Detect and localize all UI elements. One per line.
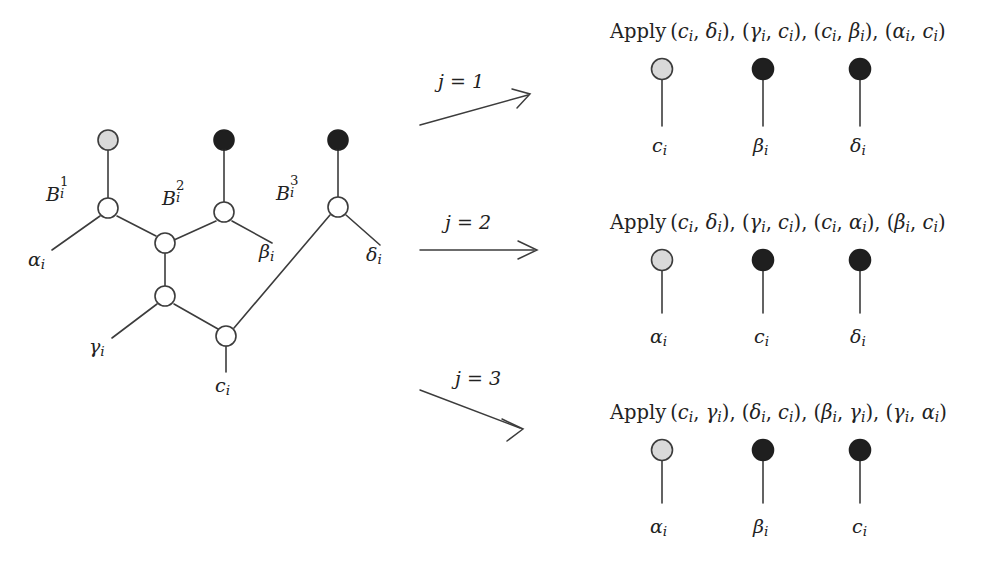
panel-j1-pair-list: (ci, δi), (γi, ci), (ci, βi), (αi, ci) <box>666 20 945 43</box>
figure-canvas: B1i B2i B3i αi βi γi δi ci j = 1 j = 2 j… <box>0 0 988 565</box>
panel-j1-stem-label-3: δi <box>850 136 866 158</box>
apply-pair: (γi, ci) <box>742 20 801 43</box>
panel-j2-stem-label-3: δi <box>850 327 866 349</box>
gadget-label-B2: B2i <box>162 186 188 208</box>
node-top-3-black <box>328 130 348 150</box>
node-b2 <box>214 202 234 222</box>
apply-pair: (βi, γi) <box>814 401 874 424</box>
node-center-upper <box>155 233 175 253</box>
panel-j2-stem-label-1: αi <box>650 327 667 349</box>
panel-j1-apply-text: Apply (ci, δi), (γi, ci), (ci, βi), (αi,… <box>610 22 945 43</box>
node-center-lower <box>155 286 175 306</box>
edge-b2-center <box>174 221 216 240</box>
panel-j3-stem-label-2: βi <box>753 517 768 539</box>
arrow-label-j1: j = 1 <box>438 72 484 91</box>
edge-mid-c <box>174 304 218 329</box>
stem-node-2-2 <box>753 250 774 271</box>
node-top-2-black <box>214 130 234 150</box>
apply-pair: (ci, βi) <box>814 20 873 43</box>
stem-node-2-1 <box>652 250 673 271</box>
node-b1 <box>98 198 118 218</box>
arrow-label-j2: j = 2 <box>445 213 491 232</box>
panel-j2-apply-text: Apply (ci, δi), (γi, ci), (ci, αi), (βi,… <box>610 213 945 234</box>
stem-node-1-1 <box>652 59 673 80</box>
edge-mid-gamma <box>112 304 157 338</box>
node-c <box>216 326 236 346</box>
gadget-label-alpha: αi <box>28 250 45 272</box>
edge-b3-delta <box>346 215 380 245</box>
stem-node-3-3 <box>850 440 871 461</box>
gadget-label-B3: B3i <box>276 181 302 203</box>
apply-pair: (ci, δi) <box>666 211 729 234</box>
panel-j1-stem-label-2: βi <box>753 136 768 158</box>
arrow-j3-shaft <box>420 390 520 428</box>
apply-pair: (δi, ci) <box>742 401 801 424</box>
panel-j3-stem-label-1: αi <box>650 517 667 539</box>
apply-pair: (βi, ci) <box>887 211 946 234</box>
panel-j1-stem-label-1: ci <box>652 136 667 158</box>
panel-j3-stems <box>652 440 871 504</box>
stem-node-1-3 <box>850 59 871 80</box>
panel-j2-stems <box>652 250 871 314</box>
gadget-label-B1: B1i <box>46 182 72 204</box>
apply-pair: (ci, αi) <box>814 211 875 234</box>
gadget-label-delta: δi <box>366 245 382 267</box>
gadget-label-c: ci <box>215 376 230 398</box>
edge-b1-alpha <box>52 216 100 250</box>
node-b3 <box>328 197 348 217</box>
arrow-j1-shaft <box>420 95 528 125</box>
stem-node-2-3 <box>850 250 871 271</box>
gadget-label-beta: βi <box>259 242 274 264</box>
panel-j3-pair-list: (ci, γi), (δi, ci), (βi, γi), (γi, αi) <box>666 401 947 424</box>
panel-j3-apply-text: Apply (ci, γi), (δi, ci), (βi, γi), (γi,… <box>610 403 947 424</box>
panel-j1-stems <box>652 59 871 127</box>
stem-node-3-1 <box>652 440 673 461</box>
apply-pair: (γi, ci) <box>742 211 801 234</box>
apply-pair: (ci, δi) <box>666 20 729 43</box>
edge-b1-center <box>117 216 156 236</box>
gadget-label-gamma: γi <box>89 337 105 359</box>
apply-pair: (γi, αi) <box>886 401 947 424</box>
edge-b3-c <box>234 215 330 328</box>
apply-pair: (ci, γi) <box>666 401 729 424</box>
panel-j3-stem-label-3: ci <box>852 517 867 539</box>
stem-node-1-2 <box>753 59 774 80</box>
arrow-label-j3: j = 3 <box>455 369 501 388</box>
apply-pair: (αi, ci) <box>885 20 946 43</box>
stem-node-3-2 <box>753 440 774 461</box>
panel-j2-stem-label-2: ci <box>754 327 769 349</box>
figure-vector-layer <box>0 0 988 565</box>
node-top-1-gray <box>98 130 118 150</box>
panel-j2-pair-list: (ci, δi), (γi, ci), (ci, αi), (βi, ci) <box>666 211 945 234</box>
